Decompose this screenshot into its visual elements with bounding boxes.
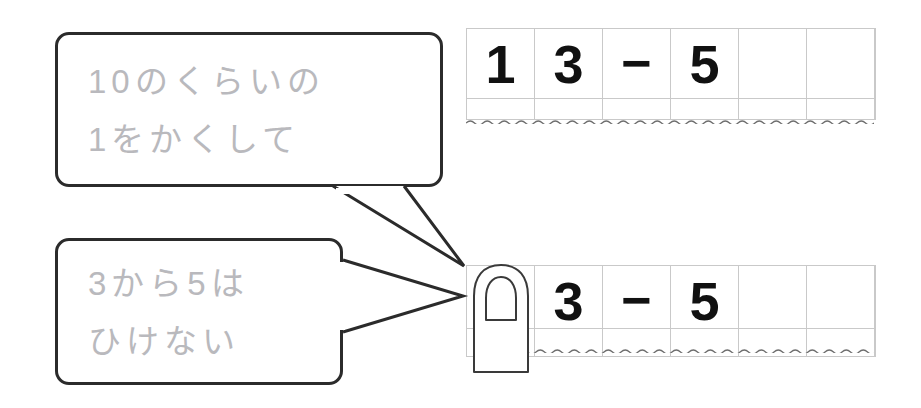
speech-tail-two — [343, 260, 463, 332]
cell-glyph: 1 — [485, 37, 515, 91]
number-grid-top: 1 3 − 5 — [466, 28, 876, 120]
speech-tail-one — [333, 186, 464, 266]
grid-cell[interactable]: 3 — [535, 29, 603, 119]
cell-glyph-minus: − — [621, 274, 651, 326]
fingernail-path — [486, 277, 516, 320]
speech-bubble-cannot-subtract[interactable]: 3から5は ひけない — [55, 238, 343, 385]
cell-glyph: 5 — [689, 274, 719, 328]
grid-cell-empty[interactable] — [807, 29, 875, 119]
tail-one-join-mask — [336, 188, 402, 194]
speech-bubble-hide-tens[interactable]: 10のくらいの 1をかくして — [55, 32, 443, 187]
grid-cell[interactable]: − — [603, 29, 671, 119]
grid-cell-empty[interactable] — [739, 29, 807, 119]
bubble-one-line-1: 10のくらいの — [88, 53, 430, 111]
finger-covering-tens-digit[interactable] — [470, 262, 532, 378]
bubble-two-line-2: ひけない — [88, 313, 330, 371]
worksheet-canvas: 1 3 − 5 3 − 5 — [0, 0, 921, 408]
grid-cell[interactable]: 5 — [671, 29, 739, 119]
grid-cell[interactable]: 1 — [467, 29, 535, 119]
torn-edge-wave-top — [466, 114, 874, 124]
torn-edge-wave-bottom — [502, 343, 874, 353]
grid-divider-line — [467, 98, 875, 99]
grid-cells-top: 1 3 − 5 — [466, 28, 876, 120]
cell-glyph: 5 — [689, 37, 719, 91]
cell-glyph: 3 — [553, 274, 583, 328]
cell-glyph: 3 — [553, 37, 583, 91]
bubble-one-line-2: 1をかくして — [88, 111, 430, 169]
bubble-two-line-1: 3から5は — [88, 255, 330, 313]
cell-glyph-minus: − — [621, 37, 651, 89]
